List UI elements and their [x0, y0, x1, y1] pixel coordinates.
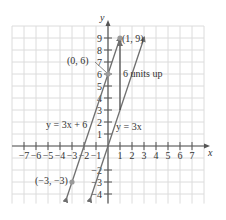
y-tick-label: 6 [97, 69, 102, 80]
x-tick-label: −4 [55, 150, 66, 161]
shift-annotation: 6 units up [123, 68, 162, 79]
x-tick-label: 7 [190, 150, 195, 161]
coordinate-plane: −7−6−5−4−3−2−11234567−4−3−2123456789 y x… [0, 0, 226, 220]
x-tick-label: −1 [91, 150, 102, 161]
y-axis-label: y [99, 12, 105, 23]
data-point [69, 179, 74, 184]
x-axis-label: x [207, 147, 213, 158]
x-tick-label: −7 [19, 150, 30, 161]
x-tick-label: 5 [166, 150, 171, 161]
graph-figure: −7−6−5−4−3−2−11234567−4−3−2123456789 y x… [0, 0, 226, 220]
y-tick-label: 8 [97, 45, 102, 56]
y-tick-label: 1 [97, 129, 102, 140]
x-tick-label: −3 [67, 150, 78, 161]
x-tick-label: 4 [154, 150, 159, 161]
point-label-neg3-neg3: (−3, −3) [35, 175, 68, 187]
line-label-3x-plus-6: y = 3x + 6 [46, 119, 87, 130]
data-point [105, 71, 110, 76]
y-tick-label: 2 [97, 117, 102, 128]
x-tick-label: −5 [43, 150, 54, 161]
x-tick-label: −6 [31, 150, 42, 161]
point-label-0-6: (0, 6) [67, 55, 89, 67]
x-tick-label: 3 [142, 150, 147, 161]
x-tick-label: 1 [118, 150, 123, 161]
y-tick-label: 5 [97, 81, 102, 92]
y-tick-label: 9 [97, 33, 102, 44]
y-axis-arrow-icon [106, 20, 111, 26]
point-label-1-9: (1, 9) [122, 33, 144, 45]
x-tick-label: 2 [130, 150, 135, 161]
x-tick-label: 6 [178, 150, 183, 161]
line-label-3x: y = 3x [116, 121, 142, 132]
